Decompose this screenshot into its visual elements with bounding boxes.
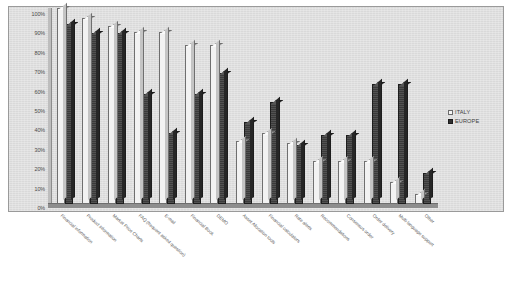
y-axis-tick: 90% bbox=[9, 30, 45, 36]
bar-groups bbox=[52, 8, 436, 204]
y-axis-tick: 50% bbox=[9, 108, 45, 114]
bar-italy bbox=[287, 143, 295, 204]
bar-italy bbox=[338, 161, 346, 204]
bar-group bbox=[52, 8, 78, 204]
y-axis-tick: 10% bbox=[9, 186, 45, 192]
y-axis-tick: 0% bbox=[9, 205, 45, 211]
bar-italy bbox=[185, 45, 193, 204]
bar-group bbox=[129, 8, 155, 204]
bar-italy bbox=[134, 32, 142, 204]
y-axis-tick: 20% bbox=[9, 166, 45, 172]
bar-group bbox=[308, 8, 334, 204]
bar-group bbox=[282, 8, 308, 204]
legend-label: ITALY bbox=[455, 109, 470, 116]
bar-italy bbox=[262, 133, 270, 204]
bar-italy bbox=[390, 182, 398, 204]
x-axis-label: FAQ (frequent asked question) bbox=[137, 213, 186, 258]
bar-group bbox=[231, 8, 257, 204]
y-axis: 0%10%20%30%40%50%60%70%80%90%100% bbox=[8, 6, 48, 218]
y-axis-tick: 40% bbox=[9, 127, 45, 133]
plot-area bbox=[48, 8, 438, 208]
bar-group bbox=[334, 8, 360, 204]
x-axis-label: Financial Book bbox=[189, 213, 214, 237]
bar-italy bbox=[313, 161, 321, 204]
legend-label: EUROPE bbox=[455, 118, 479, 125]
bar-group bbox=[359, 8, 385, 204]
bar-group bbox=[206, 8, 232, 204]
y-axis-tick: 60% bbox=[9, 89, 45, 95]
y-axis-tick: 100% bbox=[9, 11, 45, 17]
bar-group bbox=[78, 8, 104, 204]
x-axis-label: Consensus order bbox=[345, 213, 374, 240]
legend-swatch-icon bbox=[448, 119, 453, 124]
chart-legend: ITALYEUROPE bbox=[448, 108, 504, 132]
bar-group bbox=[410, 8, 436, 204]
bar-italy bbox=[364, 161, 372, 204]
bar-group bbox=[103, 8, 129, 204]
bar-group bbox=[257, 8, 283, 204]
x-axis-label: Order delivery bbox=[371, 213, 396, 236]
y-axis-tick: 30% bbox=[9, 147, 45, 153]
bar-italy bbox=[210, 45, 218, 204]
bar-italy bbox=[236, 141, 244, 204]
x-axis-label: Rate alerts bbox=[293, 213, 313, 232]
x-axis-labels: Financial informationProduct information… bbox=[52, 213, 442, 291]
bar-group bbox=[180, 8, 206, 204]
bar-italy bbox=[57, 8, 65, 204]
bar-italy bbox=[108, 26, 116, 204]
y-axis-tick: 70% bbox=[9, 69, 45, 75]
legend-item-italy[interactable]: ITALY bbox=[448, 108, 504, 117]
chart-screenshot: 0%10%20%30%40%50%60%70%80%90%100% Financ… bbox=[0, 0, 512, 294]
bar-italy bbox=[82, 18, 90, 204]
y-axis-tick: 80% bbox=[9, 50, 45, 56]
bar-group bbox=[385, 8, 411, 204]
x-axis-label: DEMO bbox=[215, 213, 229, 226]
x-axis-label: Other bbox=[423, 213, 435, 225]
bar-group bbox=[154, 8, 180, 204]
bar-italy bbox=[159, 32, 167, 204]
bar-italy bbox=[415, 194, 423, 204]
legend-item-europe[interactable]: EUROPE bbox=[448, 117, 504, 126]
legend-swatch-icon bbox=[448, 110, 453, 115]
x-axis-label: E-mail bbox=[163, 213, 176, 226]
